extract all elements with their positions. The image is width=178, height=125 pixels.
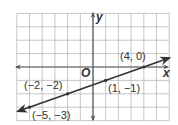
- point-label-1-minus1: (1, −1): [108, 82, 140, 94]
- point-label-minus5-minus3: (−5, −3): [32, 109, 71, 121]
- data-point: [142, 65, 145, 68]
- x-axis-label: x: [162, 66, 171, 80]
- point-label-4-0: (4, 0): [120, 50, 146, 62]
- origin-label: O: [81, 66, 91, 80]
- coordinate-graph: x y O (−5, −3) (−2, −2) (1, −1) (4, 0): [0, 0, 178, 125]
- point-label-minus2-minus2: (−2, −2): [24, 79, 63, 91]
- data-point: [66, 92, 69, 95]
- data-point: [104, 79, 107, 82]
- y-axis-label: y: [95, 10, 104, 24]
- data-point: [28, 106, 31, 109]
